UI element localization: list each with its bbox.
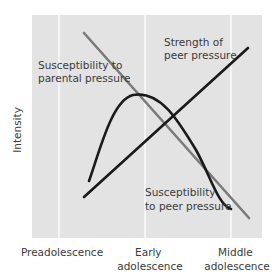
chart: Susceptibility to parental pressure Stre…	[0, 0, 272, 277]
x-tick-preadolescence: Preadolescence	[21, 246, 103, 258]
x-tick-early-adolescence: Early adolescence	[117, 246, 183, 272]
label-strength-peer-pressure: Strength of peer pressure	[164, 36, 237, 61]
label-parental-pressure: Susceptibility to parental pressure	[38, 59, 130, 84]
y-axis-label: Intensity	[11, 107, 23, 153]
x-tick-middle-adolescence: Middle adolescence	[204, 246, 270, 272]
